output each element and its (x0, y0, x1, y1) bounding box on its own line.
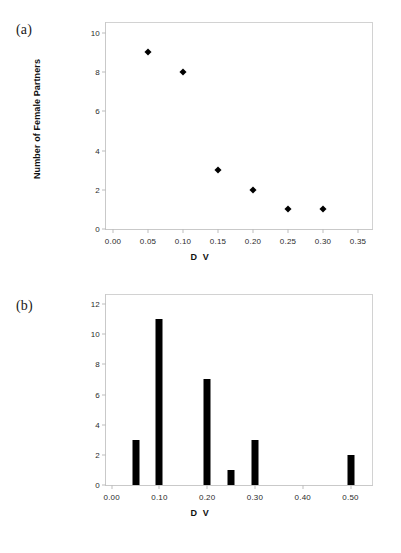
panel-b-plot-frame: 0246810120.000.100.200.300.400.50 (105, 294, 373, 486)
panel-a: (a) Number of Female Partners 02468100.0… (0, 0, 401, 276)
bar (132, 440, 139, 485)
panel-b-x-tick-mark (111, 485, 112, 489)
figure-container: (a) Number of Female Partners 02468100.0… (0, 0, 401, 553)
panel-a-plot-area: 02468100.000.050.100.150.200.250.300.35 (106, 23, 372, 229)
panel-b-y-tick-mark (102, 424, 106, 425)
panel-b-label: (b) (16, 298, 33, 314)
bar (347, 455, 354, 485)
panel-a-y-tick-mark (102, 72, 106, 73)
panel-b: (b) 0246810120.000.100.200.300.400.50 D … (0, 276, 401, 553)
panel-b-x-tick-mark (350, 485, 351, 489)
panel-b-y-tick-mark (102, 334, 106, 335)
panel-a-y-tick-mark (102, 189, 106, 190)
panel-a-y-tick-mark (102, 150, 106, 151)
panel-a-y-axis-title: Number of Female Partners (32, 54, 42, 184)
panel-a-x-tick-mark (148, 229, 149, 233)
data-point (214, 167, 221, 174)
bar (251, 440, 258, 485)
panel-b-x-axis-title: D V (0, 508, 401, 518)
panel-a-x-tick-mark (358, 229, 359, 233)
data-point (144, 49, 151, 56)
panel-b-y-tick-mark (102, 304, 106, 305)
data-point (249, 186, 256, 193)
panel-b-x-tick-mark (254, 485, 255, 489)
panel-b-y-tick-mark (102, 394, 106, 395)
panel-a-y-tick-mark (102, 111, 106, 112)
panel-a-x-tick-mark (218, 229, 219, 233)
panel-a-y-tick-mark (102, 32, 106, 33)
bar (228, 470, 235, 485)
panel-a-x-tick-mark (323, 229, 324, 233)
panel-b-plot-area: 0246810120.000.100.200.300.400.50 (106, 295, 372, 485)
panel-b-y-tick-mark (102, 364, 106, 365)
bar (156, 319, 163, 485)
data-point (319, 206, 326, 213)
panel-a-x-tick-mark (253, 229, 254, 233)
panel-a-x-tick-mark (113, 229, 114, 233)
data-point (284, 206, 291, 213)
panel-a-x-tick-mark (288, 229, 289, 233)
panel-a-x-tick-mark (183, 229, 184, 233)
panel-a-plot-frame: 02468100.000.050.100.150.200.250.300.35 (105, 22, 373, 230)
panel-b-x-tick-mark (159, 485, 160, 489)
bar (204, 379, 211, 485)
panel-a-y-spine (105, 22, 106, 230)
panel-b-y-tick-mark (102, 454, 106, 455)
data-point (179, 69, 186, 76)
panel-a-label: (a) (16, 22, 32, 38)
panel-b-x-spine (105, 485, 373, 486)
panel-b-x-tick-mark (207, 485, 208, 489)
panel-a-x-axis-title: D V (0, 252, 401, 262)
panel-b-x-tick-mark (302, 485, 303, 489)
